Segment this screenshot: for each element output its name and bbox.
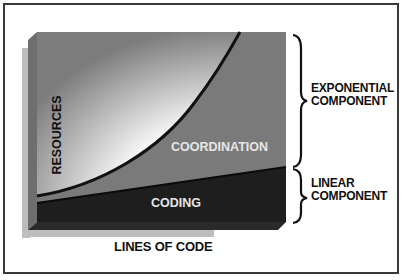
coding-label: CODING bbox=[151, 196, 201, 210]
left-bevel bbox=[28, 32, 37, 230]
exponential-brace-icon bbox=[293, 35, 307, 167]
coordination-label: COORDINATION bbox=[171, 140, 268, 154]
y-axis-label: RESOURCES bbox=[50, 80, 64, 190]
exponential-line2: COMPONENT bbox=[311, 95, 394, 108]
x-axis-label: LINES OF CODE bbox=[114, 240, 213, 253]
linear-line2: COMPONENT bbox=[311, 190, 387, 203]
linear-brace-icon bbox=[293, 169, 307, 223]
bottom-bevel bbox=[28, 222, 286, 230]
linear-component-label: LINEAR COMPONENT bbox=[311, 177, 387, 203]
exponential-component-label: EXPONENTIAL COMPONENT bbox=[311, 82, 394, 108]
